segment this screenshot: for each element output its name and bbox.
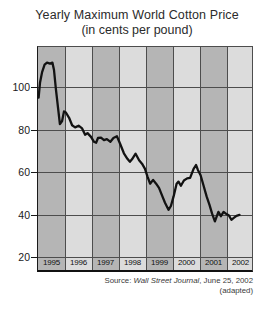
column-separator [173,47,174,270]
gridline-40 [38,215,252,216]
y-tick-label-80: 80 [0,124,30,136]
column-separator [200,47,201,270]
column-separator [146,47,147,270]
y-tick-label-60: 60 [0,166,30,178]
year-band-2002 [227,47,253,270]
year-band-1997 [92,47,119,270]
plot-area: 19951996199719981999200020012002 [37,46,253,272]
column-separator [119,47,120,270]
chart-title: Yearly Maximum World Cotton Price [24,8,250,23]
cotton-price-chart-figure: Yearly Maximum World Cotton Price (in ce… [0,0,263,311]
column-separator [227,47,228,270]
gridline-80 [38,130,252,131]
y-tick-label-100: 100 [0,81,30,93]
y-tick-label-40: 40 [0,209,30,221]
chart-title-block: Yearly Maximum World Cotton Price (in ce… [24,8,250,38]
column-separator [92,47,93,270]
source-journal: Wall Street Journal [134,276,200,285]
year-band-1998 [119,47,146,270]
year-band-2000 [173,47,200,270]
year-band-1999 [146,47,173,270]
source-suffix: , June 25, 2002 [199,276,253,285]
gridline-60 [38,172,252,173]
chart-subtitle: (in cents per pound) [24,23,250,38]
gridline-100 [38,87,252,88]
source-prefix: Source: [104,276,133,285]
y-tick-label-20: 20 [0,251,30,263]
year-band-1995 [38,47,65,270]
adapted-note: (adapted) [10,286,253,296]
source-line: Source: Wall Street Journal, June 25, 20… [10,276,253,286]
year-band-1996 [65,47,92,270]
gridline-20 [38,257,252,258]
column-separator [65,47,66,270]
year-band-2001 [200,47,227,270]
source-text: Source: Wall Street Journal, June 25, 20… [10,276,253,296]
